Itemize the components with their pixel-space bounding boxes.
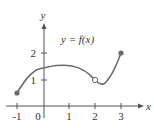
closed-endpoint-left [14,90,19,95]
x-tick-label: 3 [118,110,124,122]
open-point [92,77,97,82]
x-axis-arrow-icon [138,104,144,109]
x-tick-label: -1 [12,110,21,122]
x-tick-label: 2 [92,110,98,122]
y-tick-label: 2 [31,47,37,59]
x-tick-label: 0 [35,110,41,122]
x-tick-label: 1 [66,110,72,122]
y-axis-label: y [40,9,46,21]
function-graph: -1 0 1 2 3 1 2 x y y = f(x) [0,0,154,128]
graph-canvas: -1 0 1 2 3 1 2 x y y = f(x) [0,0,154,128]
closed-endpoint-right [118,50,123,55]
y-tick-label: 1 [31,74,37,86]
x-axis-label: x [145,100,151,112]
y-axis-arrow-icon [42,23,47,29]
function-annotation: y = f(x) [60,33,94,46]
function-curve [17,53,121,93]
